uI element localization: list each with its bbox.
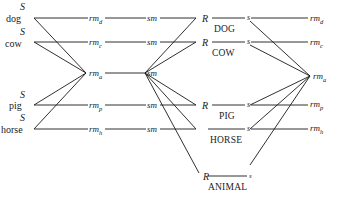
response-word: DOG xyxy=(214,24,235,34)
response-cow: R COW s xyxy=(201,37,250,58)
response-r-label: R xyxy=(201,13,208,24)
stimulus-word: horse xyxy=(1,124,23,135)
mediator-right-p: rmp xyxy=(310,99,324,111)
sm-label-pig: sm xyxy=(147,100,158,110)
mediator-left-d: rmd xyxy=(89,13,103,25)
mediator-right-d: rmd xyxy=(310,13,324,25)
response-r-label: R xyxy=(201,100,208,111)
mediation-diagram: S dog S cow S pig S horse rmd rmc rma rm… xyxy=(0,0,337,200)
response-s-label: s xyxy=(247,13,250,22)
svg-text:rma: rma xyxy=(89,68,102,80)
response-r-label: R xyxy=(202,171,209,182)
stimulus-word: pig xyxy=(9,100,22,111)
mediator-left-h: rmh xyxy=(89,124,102,136)
sm-label-cow: sm xyxy=(147,37,158,47)
svg-text:rmc: rmc xyxy=(89,37,102,49)
stimulus-word: dog xyxy=(6,13,21,24)
stimulus-horse: S horse xyxy=(1,112,25,135)
response-word: HORSE xyxy=(210,135,242,145)
response-s-label: s xyxy=(249,172,252,180)
mediator-right-h: rmh xyxy=(310,123,323,135)
svg-text:rmp: rmp xyxy=(89,100,103,112)
mediator-left-a: rma xyxy=(89,68,102,80)
stimulus-s-label: S xyxy=(20,1,25,12)
svg-text:rma: rma xyxy=(313,71,326,83)
mediator-left-p: rmp xyxy=(89,100,103,112)
stimulus-s-label: S xyxy=(20,89,25,100)
mediator-right-a: rma xyxy=(313,71,326,83)
stimulus-s-label: S xyxy=(20,26,25,37)
stimulus-cow: S cow xyxy=(5,26,25,49)
stimulus-word: cow xyxy=(5,38,22,49)
sm-label-dog: sm xyxy=(147,13,158,23)
response-r-label: R xyxy=(201,37,208,48)
stimulus-s-label: S xyxy=(20,112,25,123)
response-s-label: s xyxy=(247,124,250,133)
response-word: COW xyxy=(212,48,235,58)
response-animal: R ANIMAL s xyxy=(202,171,252,192)
mediator-left-c: rmc xyxy=(89,37,102,49)
stimulus-pig: S pig xyxy=(9,89,25,111)
sm-label-horse: sm xyxy=(147,124,158,134)
response-word: ANIMAL xyxy=(208,182,247,192)
response-pig: R PIG s xyxy=(201,100,250,121)
svg-text:rmd: rmd xyxy=(89,13,103,25)
svg-text:rmh: rmh xyxy=(89,124,102,136)
response-horse: HORSE s xyxy=(210,124,250,145)
svg-text:rmc: rmc xyxy=(310,37,323,49)
mediator-right-c: rmc xyxy=(310,37,323,49)
connection-lines xyxy=(34,18,310,176)
response-dog: R DOG s xyxy=(201,13,250,34)
diagram-canvas: S dog S cow S pig S horse rmd rmc rma rm… xyxy=(0,0,337,200)
response-s-label: s xyxy=(247,100,250,109)
response-word: PIG xyxy=(219,111,235,121)
svg-text:rmp: rmp xyxy=(310,99,324,111)
response-s-label: s xyxy=(247,37,250,46)
svg-text:rmh: rmh xyxy=(310,123,323,135)
svg-text:rmd: rmd xyxy=(310,13,324,25)
stimulus-dog: S dog xyxy=(6,1,25,24)
